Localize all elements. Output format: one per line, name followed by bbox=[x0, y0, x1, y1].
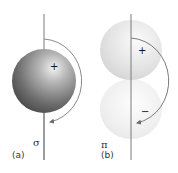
phase-sign-plus-a: + bbox=[50, 61, 58, 72]
panel-label-b: (b) bbox=[101, 150, 114, 160]
orbital-symmetry-diagram: + σ (a) + − π (b) bbox=[0, 0, 178, 173]
panel-a: + σ (a) bbox=[12, 14, 82, 160]
pi-symbol: π bbox=[101, 139, 108, 150]
panel-label-a: (a) bbox=[12, 150, 25, 160]
panel-b: + − π (b) bbox=[100, 14, 169, 160]
phase-sign-plus-b: + bbox=[138, 45, 146, 56]
sigma-symbol: σ bbox=[33, 137, 40, 148]
s-orbital-sphere bbox=[12, 49, 76, 113]
phase-sign-minus-b: − bbox=[141, 106, 149, 117]
